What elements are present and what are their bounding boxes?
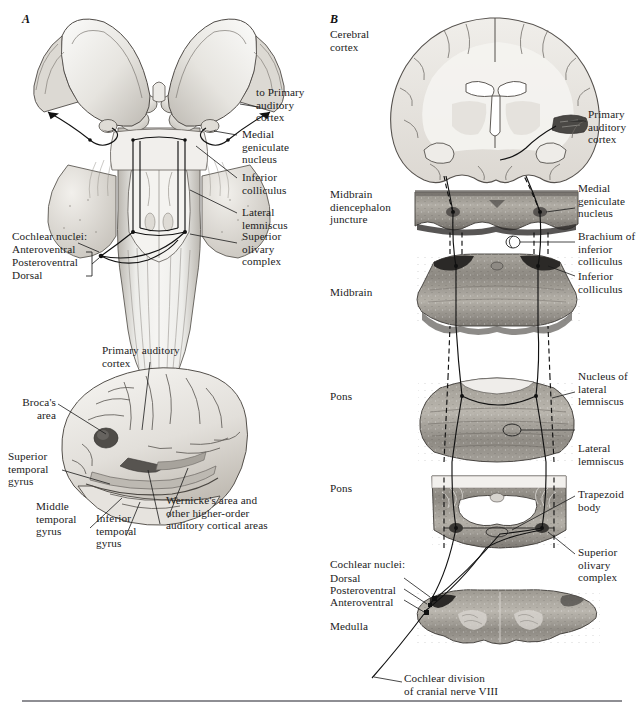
label-midbrain-diencephalon-juncture: Midbrain diencephalon juncture	[330, 188, 391, 226]
label-medulla: Medulla	[330, 620, 368, 633]
label-pons-lower: Pons	[330, 482, 352, 495]
label-brachium-inferior-colliculus: Brachium of inferior colliculus	[578, 230, 635, 268]
label-anteroventral-b: Anteroventral	[330, 596, 393, 609]
label-superior-olivary-complex-b: Superior olivary complex	[578, 546, 617, 584]
label-trapezoid-body: Trapezoid body	[578, 488, 624, 513]
label-posteroventral-b: Posteroventral	[330, 584, 396, 597]
figure-auditory-pathways: A	[0, 0, 643, 719]
panel-b-artwork	[0, 0, 643, 719]
label-lateral-lemniscus-b: Lateral lemniscus	[578, 442, 624, 467]
label-cochlear-nuclei-header-b: Cochlear nuclei:	[330, 558, 405, 571]
label-pons-upper: Pons	[330, 390, 352, 403]
midbrain-diencephalon-section	[415, 190, 578, 236]
label-nucleus-lateral-lemniscus: Nucleus of lateral lemniscus	[578, 370, 628, 408]
label-primary-auditory-cortex-b: Primary auditory cortex	[588, 108, 626, 146]
leader-cn8	[374, 677, 402, 682]
midbrain-section	[412, 254, 584, 335]
label-inferior-colliculus-b: Inferior colliculus	[578, 270, 623, 295]
label-cochlear-division-cn8: Cochlear division of cranial nerve VIII	[404, 672, 498, 697]
label-midbrain: Midbrain	[330, 286, 372, 299]
label-dorsal-b: Dorsal	[330, 572, 360, 585]
footer-rule	[22, 700, 622, 702]
coronal-cortex-section	[391, 18, 600, 183]
label-cerebral-cortex: Cerebral cortex	[330, 28, 369, 53]
label-medial-geniculate-nucleus-b: Medial geniculate nucleus	[578, 182, 625, 220]
